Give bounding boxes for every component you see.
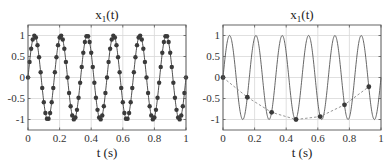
y-tick-label: -0.5 bbox=[203, 92, 221, 104]
x-axis-label: t (s) bbox=[97, 145, 118, 160]
sample-marker bbox=[170, 65, 174, 69]
sample-marker bbox=[294, 117, 299, 122]
sample-marker bbox=[38, 70, 42, 74]
sample-marker bbox=[165, 34, 169, 38]
sample-marker bbox=[34, 35, 38, 39]
figure-canvas: 00.20.40.60.8110.50-0.5-1x1(t)t (s)00.20… bbox=[0, 0, 392, 166]
sample-marker bbox=[50, 100, 54, 104]
sample-marker bbox=[86, 34, 90, 38]
sample-marker bbox=[154, 108, 158, 112]
sample-marker bbox=[138, 33, 142, 37]
sample-marker bbox=[91, 65, 95, 69]
sample-marker bbox=[73, 115, 77, 119]
x-tick-label: 0 bbox=[25, 132, 31, 144]
sample-marker bbox=[179, 113, 183, 117]
chart-panel-1: 00.20.40.60.8110.50-0.5-1x1(t)t (s) bbox=[8, 7, 189, 160]
y-tick-label: 0 bbox=[20, 71, 26, 83]
sample-marker bbox=[160, 51, 164, 55]
y-tick-label: 0 bbox=[215, 71, 221, 83]
sample-marker bbox=[173, 96, 177, 100]
sample-marker bbox=[42, 100, 46, 104]
sample-marker bbox=[129, 100, 133, 104]
sample-marker bbox=[108, 47, 112, 51]
sample-marker bbox=[113, 35, 117, 39]
sample-marker bbox=[37, 55, 41, 59]
sample-marker bbox=[106, 60, 110, 64]
sample-marker bbox=[43, 111, 47, 115]
sample-marker bbox=[171, 81, 175, 85]
x-tick-label: 0.6 bbox=[116, 132, 130, 144]
sample-marker bbox=[342, 102, 347, 107]
sample-marker bbox=[56, 43, 60, 47]
x-tick-label: 1 bbox=[378, 132, 384, 144]
sample-marker bbox=[140, 37, 144, 41]
sample-marker bbox=[181, 104, 185, 108]
sample-marker bbox=[54, 55, 58, 59]
sample-marker bbox=[87, 40, 91, 44]
sample-marker bbox=[40, 86, 44, 90]
chart-title: x1(t) bbox=[95, 7, 118, 24]
x-axis-label: t (s) bbox=[292, 145, 313, 160]
sample-marker bbox=[318, 114, 323, 119]
sample-marker bbox=[89, 51, 93, 55]
sample-marker bbox=[133, 55, 137, 59]
y-tick-label: 0.5 bbox=[11, 50, 25, 62]
sample-marker bbox=[144, 75, 148, 79]
y-tick-label: -0.5 bbox=[8, 92, 26, 104]
sample-marker bbox=[35, 43, 39, 47]
x-tick-label: 0.6 bbox=[311, 132, 325, 144]
x-tick-label: 0.2 bbox=[53, 132, 67, 144]
chart-title: x1(t) bbox=[290, 7, 313, 24]
sample-marker bbox=[53, 70, 57, 74]
sample-marker bbox=[83, 40, 87, 44]
sample-marker bbox=[102, 104, 106, 108]
sample-marker bbox=[78, 81, 82, 85]
sample-marker bbox=[141, 47, 145, 51]
sample-marker bbox=[65, 75, 69, 79]
sample-marker bbox=[62, 47, 66, 51]
y-tick-label: -1 bbox=[16, 113, 25, 125]
sample-marker bbox=[166, 40, 170, 44]
sample-marker bbox=[81, 51, 85, 55]
sample-marker bbox=[98, 117, 102, 121]
x-tick-label: 0.2 bbox=[248, 132, 262, 144]
sample-marker bbox=[75, 108, 79, 112]
sample-marker bbox=[46, 117, 50, 121]
sample-marker bbox=[121, 100, 125, 104]
sample-marker bbox=[143, 60, 147, 64]
y-tick-label: -1 bbox=[211, 113, 220, 125]
x-tick-label: 1 bbox=[183, 132, 189, 144]
sample-marker bbox=[80, 65, 84, 69]
y-tick-label: 1 bbox=[215, 29, 221, 41]
sample-marker bbox=[67, 91, 71, 95]
sample-marker bbox=[117, 70, 121, 74]
sample-marker bbox=[105, 75, 109, 79]
sample-marker bbox=[61, 37, 65, 41]
sample-marker bbox=[135, 43, 139, 47]
sample-marker bbox=[94, 96, 98, 100]
sample-marker bbox=[146, 91, 150, 95]
sample-marker bbox=[366, 84, 371, 89]
sample-marker bbox=[130, 86, 134, 90]
sample-marker bbox=[155, 96, 159, 100]
x-tick-label: 0.4 bbox=[84, 132, 98, 144]
sample-marker bbox=[122, 111, 126, 115]
sample-marker bbox=[95, 108, 99, 112]
x-tick-label: 0.8 bbox=[148, 132, 162, 144]
chart-panel-2: 00.20.40.60.8110.50-0.5-1x1(t)t (s) bbox=[203, 7, 384, 160]
sample-marker bbox=[157, 81, 161, 85]
sample-marker bbox=[269, 110, 274, 115]
sample-marker bbox=[125, 117, 129, 121]
sample-marker bbox=[51, 86, 55, 90]
sample-marker bbox=[64, 60, 68, 64]
x-tick-label: 0.4 bbox=[279, 132, 293, 144]
sample-marker bbox=[152, 115, 156, 119]
sample-marker bbox=[127, 111, 131, 115]
sample-marker bbox=[168, 51, 172, 55]
sample-marker bbox=[100, 113, 104, 117]
sample-marker bbox=[68, 104, 72, 108]
sample-marker bbox=[177, 117, 181, 121]
sample-marker bbox=[162, 40, 166, 44]
sample-marker bbox=[147, 104, 151, 108]
sample-marker bbox=[245, 95, 250, 100]
